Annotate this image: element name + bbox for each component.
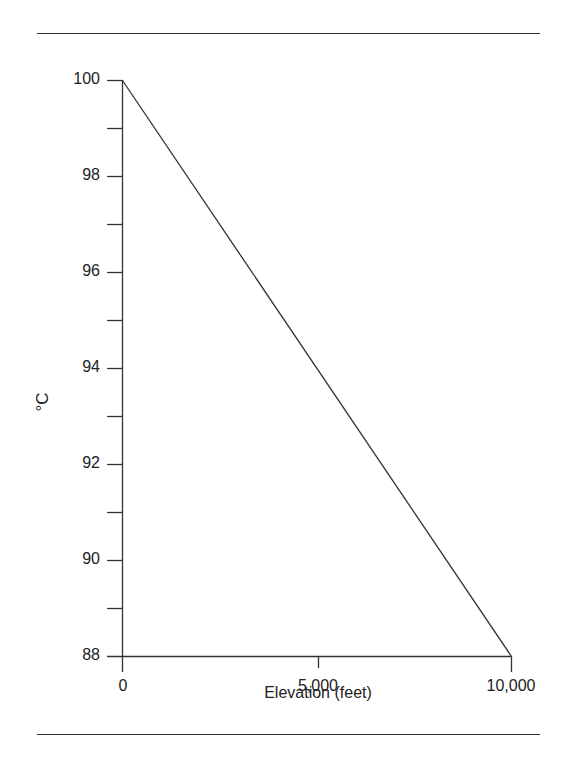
- x-tick-label-0: 0: [83, 677, 163, 695]
- y-tick-label-100: 100: [50, 70, 100, 88]
- x-ticks: [319, 657, 512, 673]
- y-tick-label-94: 94: [50, 358, 100, 376]
- y-tick-label-92: 92: [50, 454, 100, 472]
- y-tick-label-96: 96: [50, 262, 100, 280]
- x-axis-label: Elevation (feet): [226, 684, 410, 702]
- y-tick-label-88: 88: [50, 646, 100, 664]
- y-tick-label-98: 98: [50, 166, 100, 184]
- data-line: [123, 81, 512, 657]
- x-tick-label-10000: 10,000: [471, 677, 551, 695]
- y-tick-label-90: 90: [50, 550, 100, 568]
- y-axis-label: °C: [33, 387, 53, 417]
